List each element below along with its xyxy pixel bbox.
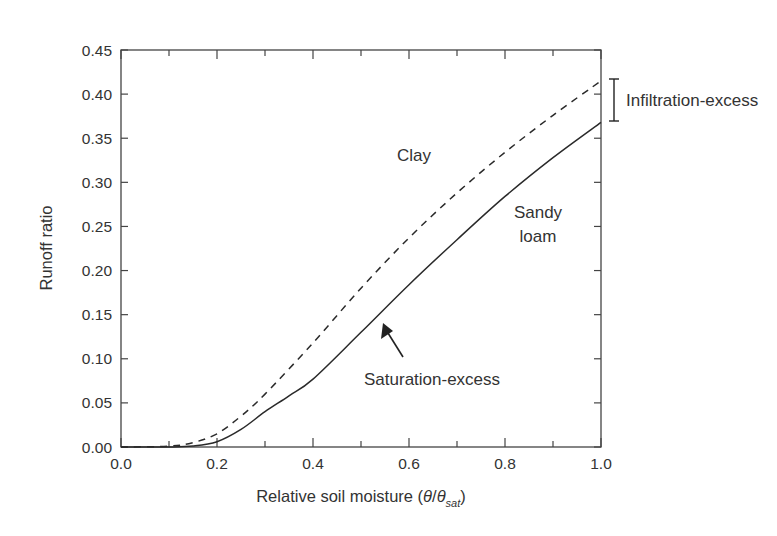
y-tick-label: 0.25	[82, 218, 112, 235]
y-tick-label: 0.30	[82, 174, 113, 191]
y-tick-label: 0.00	[82, 439, 113, 456]
plot-frame	[121, 50, 601, 447]
x-tick-label: 0.0	[110, 455, 132, 472]
theta-symbol-2: θ	[437, 487, 446, 505]
x-tick-label: 0.4	[302, 455, 324, 472]
infiltration-excess-bracket	[609, 79, 619, 121]
y-axis: 0.000.050.100.150.200.250.300.350.400.45	[82, 42, 601, 456]
infiltration-excess-label: Infiltration-excess	[626, 91, 758, 110]
x-tick-label: 1.0	[590, 455, 612, 472]
series-layer	[121, 81, 601, 447]
x-axis: 0.00.20.40.60.81.0	[110, 50, 612, 472]
y-tick-label: 0.40	[82, 86, 113, 103]
y-tick-label: 0.35	[82, 130, 112, 147]
sandy-loam-label-line1: Sandy	[514, 203, 563, 222]
theta-symbol: θ	[423, 487, 432, 505]
x-tick-label: 0.2	[206, 455, 228, 472]
x-axis-title-main: Relative soil moisture (	[256, 487, 423, 505]
x-axis-title: Relative soil moisture (θ/θsat)	[256, 487, 466, 509]
series-sandy-loam	[121, 122, 601, 447]
y-axis-title: Runoff ratio	[37, 206, 55, 291]
y-tick-label: 0.20	[82, 262, 113, 279]
y-tick-label: 0.05	[82, 394, 112, 411]
x-tick-label: 0.6	[398, 455, 420, 472]
series-clay	[121, 81, 601, 447]
y-tick-label: 0.15	[82, 306, 112, 323]
runoff-chart: 0.000.050.100.150.200.250.300.350.400.45…	[0, 0, 777, 536]
y-tick-label: 0.45	[82, 42, 112, 59]
saturation-excess-label: Saturation-excess	[364, 370, 500, 389]
sandy-loam-label-line2: loam	[520, 227, 557, 246]
plot-border	[121, 50, 601, 447]
saturation-excess-arrow	[381, 323, 403, 357]
close-paren: )	[460, 487, 466, 505]
y-tick-label: 0.10	[82, 350, 113, 367]
clay-label: Clay	[397, 146, 432, 165]
subscript-sat: sat	[446, 497, 462, 509]
x-tick-label: 0.8	[494, 455, 516, 472]
